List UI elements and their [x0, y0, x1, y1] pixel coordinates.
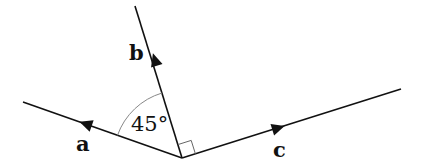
angle-45-label: 45° [131, 112, 168, 136]
vector-b-label: b [129, 40, 144, 65]
vector-c-line [182, 89, 401, 158]
vector-a-label: a [76, 131, 90, 156]
arrow-a-icon [77, 116, 93, 132]
vector-c-label: c [273, 137, 286, 162]
vector-diagram: b a c 45° [0, 0, 424, 164]
arrow-c-icon [270, 120, 286, 135]
diagram-svg: b a c 45° [0, 0, 424, 164]
